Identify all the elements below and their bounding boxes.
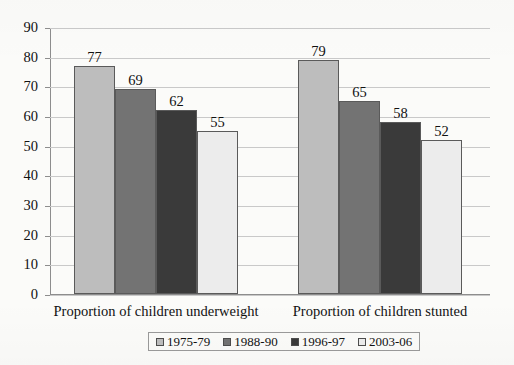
- legend-label: 1996-97: [302, 335, 345, 348]
- gridline: [50, 58, 490, 59]
- legend-swatch-icon: [156, 338, 164, 346]
- bar: [156, 110, 197, 294]
- y-axis-label: 0: [31, 287, 38, 302]
- legend-item: 1988-90: [223, 335, 277, 348]
- y-axis-tick: [45, 147, 50, 148]
- bar-value-label: 79: [311, 44, 326, 59]
- y-axis-label: 80: [24, 50, 39, 65]
- category-label: Proportion of children underweight: [54, 304, 259, 319]
- bar: [197, 131, 238, 294]
- legend-item: 1975-79: [156, 335, 210, 348]
- y-axis-label: 50: [24, 139, 39, 154]
- y-axis-label: 10: [24, 258, 39, 273]
- y-axis-label: 20: [24, 228, 39, 243]
- gridline: [50, 28, 490, 29]
- legend-swatch-icon: [291, 338, 299, 346]
- y-axis-tick: [45, 206, 50, 207]
- bar: [74, 66, 115, 294]
- bar-value-label: 65: [352, 85, 367, 100]
- y-axis-tick: [45, 28, 50, 29]
- legend-item: 1996-97: [291, 335, 345, 348]
- y-axis-tick: [45, 117, 50, 118]
- gridline: [50, 87, 490, 88]
- legend-swatch-icon: [223, 338, 231, 346]
- bar-value-label: 55: [210, 115, 225, 130]
- y-axis-tick: [45, 265, 50, 266]
- legend-swatch-icon: [358, 338, 366, 346]
- bar-value-label: 58: [393, 106, 408, 121]
- y-axis-tick: [45, 295, 50, 296]
- y-axis-label: 70: [24, 80, 39, 95]
- legend-label: 1988-90: [234, 335, 277, 348]
- y-axis-label: 90: [24, 20, 39, 35]
- y-axis-tick: [45, 87, 50, 88]
- bar: [380, 122, 421, 294]
- bar-value-label: 62: [169, 94, 184, 109]
- plot-area: 0102030405060708090 7769625579655852: [50, 28, 490, 295]
- legend-label: 1975-79: [167, 335, 210, 348]
- bar-value-label: 52: [434, 124, 449, 139]
- gridline: [50, 295, 490, 296]
- y-axis-line: [50, 28, 51, 296]
- bar: [115, 89, 156, 294]
- y-axis-tick: [45, 176, 50, 177]
- bar-value-label: 77: [87, 50, 102, 65]
- legend: 1975-791988-901996-972003-06: [148, 332, 420, 351]
- bar: [421, 140, 462, 294]
- bar-chart: 0102030405060708090 7769625579655852 Pro…: [0, 0, 514, 365]
- bar-value-label: 69: [128, 73, 143, 88]
- category-label: Proportion of children stunted: [293, 304, 467, 319]
- y-axis-tick: [45, 58, 50, 59]
- legend-label: 2003-06: [369, 335, 412, 348]
- y-axis-label: 60: [24, 109, 39, 124]
- y-axis-label: 30: [24, 198, 39, 213]
- y-axis-label: 40: [24, 169, 39, 184]
- legend-item: 2003-06: [358, 335, 412, 348]
- bar: [298, 60, 339, 294]
- bar: [339, 101, 380, 294]
- y-axis-tick: [45, 236, 50, 237]
